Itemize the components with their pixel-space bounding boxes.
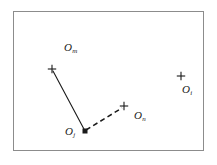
figure-container: Om Oi Oj On xyxy=(0,0,217,165)
point-label-on-base: O xyxy=(134,109,142,121)
point-label-on-subscript: n xyxy=(142,115,146,123)
point-label-om-subscript: m xyxy=(72,47,77,55)
point-label-oi: Oi xyxy=(182,84,192,97)
point-label-oi-base: O xyxy=(182,83,190,95)
point-label-oj-subscript: j xyxy=(73,131,75,139)
point-label-om: Om xyxy=(64,42,77,55)
point-label-oj: Oj xyxy=(65,126,75,139)
point-label-oj-base: O xyxy=(65,125,73,137)
plot-frame-border xyxy=(13,11,204,151)
point-label-on: On xyxy=(134,110,146,123)
point-label-oi-subscript: i xyxy=(190,89,192,97)
point-label-om-base: O xyxy=(64,41,72,53)
